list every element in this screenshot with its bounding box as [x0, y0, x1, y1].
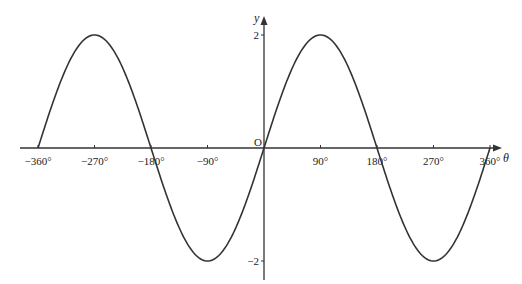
x-tick-label: −360°: [24, 155, 51, 167]
x-axis-label: θ: [503, 151, 509, 165]
y-tick-label: 2: [254, 29, 260, 41]
x-tick-label: 270°: [423, 155, 444, 167]
y-axis-arrow-icon: [261, 16, 268, 25]
x-tick-label: 360°: [480, 155, 501, 167]
x-tick-label: −90°: [197, 155, 219, 167]
x-axis-arrow-icon: [493, 145, 502, 152]
sine-chart: −360°−270°−180°−90°90°180°270°360° 2−2 θ…: [0, 0, 522, 284]
x-tick-label: 90°: [313, 155, 328, 167]
x-tick-label: −180°: [137, 155, 164, 167]
origin-label: O: [254, 136, 262, 148]
y-tick-label: −2: [247, 255, 259, 267]
y-axis-label: y: [253, 11, 260, 25]
x-tick-label: −270°: [81, 155, 108, 167]
x-tick-label: 180°: [367, 155, 388, 167]
